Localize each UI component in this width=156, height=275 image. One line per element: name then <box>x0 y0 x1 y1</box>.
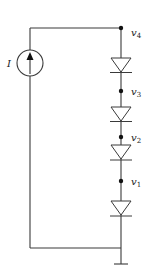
node-v2: v2 <box>119 132 141 145</box>
wires <box>30 28 121 264</box>
diode-d3 <box>110 107 132 122</box>
node-v3: v3 <box>119 86 141 99</box>
node-dot <box>119 135 123 139</box>
node-label: v3 <box>131 86 141 99</box>
diode-triangle <box>111 58 131 72</box>
circuit-diagram: I v4 v3 v2 v1 <box>0 0 156 275</box>
diode-d1 <box>110 201 132 216</box>
diode-triangle <box>111 145 131 159</box>
node-label: v1 <box>131 176 141 189</box>
node-v1: v1 <box>119 176 141 189</box>
current-source-label: I <box>6 58 12 69</box>
diode-d4 <box>110 58 132 73</box>
node-v4: v4 <box>119 26 142 40</box>
diode-d2 <box>110 145 132 160</box>
node-dot <box>119 89 123 93</box>
diode-triangle <box>111 201 131 215</box>
diode-triangle <box>111 107 131 121</box>
current-source: I <box>6 50 43 76</box>
node-label: v2 <box>131 132 141 145</box>
node-label: v4 <box>131 27 142 40</box>
node-dot <box>119 179 123 183</box>
node-dot <box>119 26 123 30</box>
